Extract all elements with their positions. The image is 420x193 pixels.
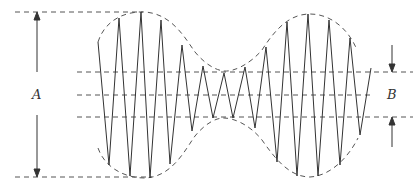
label-A: A <box>32 87 41 102</box>
lower-envelope <box>98 118 358 178</box>
waveform-figure <box>0 0 420 193</box>
label-B: B <box>387 87 397 102</box>
upper-envelope <box>98 12 357 71</box>
modulation-diagram: A B <box>0 0 420 193</box>
